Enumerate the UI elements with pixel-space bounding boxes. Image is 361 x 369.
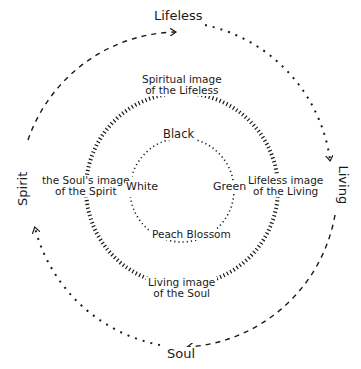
label-spiritual-image-of-lifeless: Spiritual image of the Lifeless xyxy=(140,74,224,96)
label-black: Black xyxy=(161,128,196,140)
label-line: of the Lifeless xyxy=(142,85,222,96)
label-spirit: Spirit xyxy=(16,170,30,208)
label-lifeless: Lifeless xyxy=(152,9,205,23)
label-line: of the Soul xyxy=(148,288,215,299)
label-white: White xyxy=(125,181,159,193)
label-line: of the Living xyxy=(248,186,323,197)
label-green: Green xyxy=(212,181,247,193)
label-living-image-of-soul: Living image of the Soul xyxy=(146,277,217,299)
label-peach-blossom: Peach Blossom xyxy=(150,229,233,240)
label-lifeless-image-of-living: Lifeless image of the Living xyxy=(246,175,325,197)
arc-lifeless-to-living xyxy=(205,25,330,160)
label-living: Living xyxy=(337,163,351,206)
arc-soul-to-spirit xyxy=(35,228,160,345)
label-souls-image-of-spirit: the Soul's image of the Spirit xyxy=(40,175,132,197)
label-line: of the Spirit xyxy=(42,186,130,197)
label-soul: Soul xyxy=(165,347,197,361)
